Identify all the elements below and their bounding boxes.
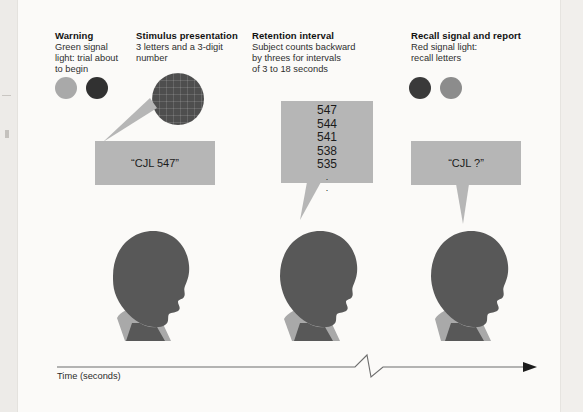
column-stimulus: Stimulus presentation 3 letters and a 3-… bbox=[136, 30, 254, 64]
count-value-1: 547 bbox=[281, 104, 373, 118]
column-recall: Recall signal and report Red signal ligh… bbox=[411, 30, 561, 64]
time-axis bbox=[55, 345, 545, 385]
recall-speech-bubble: “CJL ?” bbox=[411, 141, 521, 185]
off-signal-light bbox=[440, 77, 462, 99]
retention-title: Retention interval bbox=[252, 30, 402, 41]
sheet-edge-left bbox=[17, 0, 18, 412]
count-value-5: 535 bbox=[281, 158, 373, 172]
warning-title: Warning bbox=[55, 30, 135, 41]
page-gutter-right bbox=[561, 0, 583, 412]
column-warning: Warning Green signal light: trial about … bbox=[55, 30, 135, 74]
count-value-2: 544 bbox=[281, 118, 373, 132]
time-axis-line bbox=[57, 355, 525, 377]
recall-signal-lights bbox=[409, 77, 462, 99]
recall-description: Red signal light: recall letters bbox=[411, 42, 561, 64]
retention-bubble-tail bbox=[293, 182, 333, 222]
count-value-4: 538 bbox=[281, 145, 373, 159]
retention-speech-bubble: 547 544 541 538 535 · · bbox=[281, 101, 373, 183]
red-signal-light bbox=[409, 77, 431, 99]
stimulus-title: Stimulus presentation bbox=[136, 30, 254, 41]
time-axis-label: Time (seconds) bbox=[57, 371, 121, 381]
page-margin-mark-upper bbox=[2, 95, 11, 96]
page-gutter-left bbox=[0, 0, 17, 412]
retention-description: Subject counts backward by threes for in… bbox=[252, 42, 402, 74]
stimulus-description: 3 letters and a 3-digit number bbox=[136, 42, 254, 64]
subject-head-3 bbox=[411, 219, 531, 349]
stimulus-speech-bubble: “CJL 547” bbox=[95, 141, 215, 185]
warning-description: Green signal light: trial about to begin bbox=[55, 42, 135, 74]
subject-head-2 bbox=[256, 219, 376, 349]
green-signal-light bbox=[55, 77, 77, 99]
recall-title: Recall signal and report bbox=[411, 30, 561, 41]
stimulus-bubble-tail bbox=[95, 96, 175, 146]
figure-canvas: Warning Green signal light: trial about … bbox=[0, 0, 583, 412]
column-retention: Retention interval Subject counts backwa… bbox=[252, 30, 402, 74]
page-margin-mark-lower bbox=[5, 130, 9, 138]
time-axis-arrowhead bbox=[523, 362, 537, 372]
subject-head-1 bbox=[85, 219, 205, 349]
count-value-3: 541 bbox=[281, 131, 373, 145]
stimulus-bubble-text: “CJL 547” bbox=[95, 141, 215, 169]
recall-bubble-text: “CJL ?” bbox=[411, 141, 521, 169]
